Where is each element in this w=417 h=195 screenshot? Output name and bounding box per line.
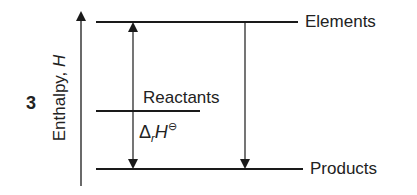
axis-label-variable: H [50,55,69,67]
delta-symbol: Δ [139,122,151,142]
delta-r-h-label: ΔrH⊖ [139,120,177,144]
elements-label: Elements [305,13,376,30]
standard-state-symbol: ⊖ [168,120,177,132]
axis-label-text: Enthalpy, [50,67,69,141]
products-label: Products [310,160,377,177]
reactants-label: Reactants [143,89,220,106]
figure-number: 3 [26,93,36,114]
y-axis-label: Enthalpy, H [50,55,70,142]
enthalpy-symbol: H [155,122,168,142]
